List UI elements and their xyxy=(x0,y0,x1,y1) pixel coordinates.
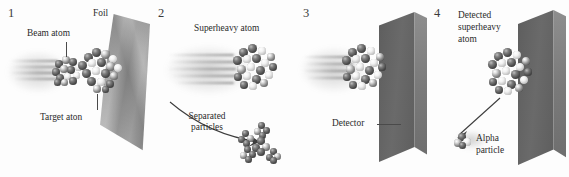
panel-2: 2 Superheavy atom xyxy=(150,0,295,177)
panel3-superheavy-cluster xyxy=(341,44,387,90)
panel-2-number: 2 xyxy=(158,6,164,21)
panel-3: 3 xyxy=(295,0,430,177)
leader-beam-atom xyxy=(66,42,67,57)
label-detected-line1: Detected xyxy=(458,10,491,21)
detector-slab xyxy=(379,12,427,162)
panel-3-number: 3 xyxy=(303,6,309,21)
label-target-atom: Target aton xyxy=(40,112,82,123)
label-foil: Foil xyxy=(93,8,108,19)
separated-particles-debris xyxy=(238,122,292,168)
label-superheavy-atom: Superheavy atom xyxy=(194,23,259,34)
panel-1-number: 1 xyxy=(8,6,14,21)
label-separated-particles-line2: particles xyxy=(176,122,238,133)
label-alpha-line2: particle xyxy=(476,145,504,156)
label-alpha-line1: Alpha xyxy=(476,133,499,144)
alpha-particle-cluster xyxy=(454,133,471,149)
label-detector: Detector xyxy=(332,118,364,129)
target-atom-cluster xyxy=(78,48,122,94)
label-detected-line3: atom xyxy=(458,34,477,45)
panel-1: 1 Foil xyxy=(0,0,150,177)
label-separated-particles-line1: Separated xyxy=(176,111,238,122)
panel-4: 4 xyxy=(430,0,569,177)
figure-superheavy-synthesis: 1 Foil xyxy=(0,0,569,177)
label-detected-line2: superheavy xyxy=(458,22,501,33)
label-beam-atom: Beam atom xyxy=(27,28,70,39)
superheavy-atom-cluster xyxy=(232,44,278,90)
leader-target-atom xyxy=(97,94,98,110)
panel-4-number: 4 xyxy=(434,6,440,21)
detected-superheavy-cluster xyxy=(486,48,534,96)
leader-detector xyxy=(377,124,401,125)
